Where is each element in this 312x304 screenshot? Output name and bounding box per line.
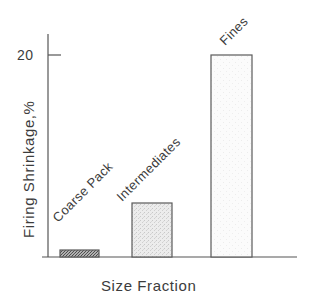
y-axis-title: Firing Shrinkage,% bbox=[20, 100, 37, 238]
bar-coarse-pack bbox=[60, 250, 99, 257]
y-tick-label-20: 20 bbox=[17, 47, 34, 63]
category-label-intermediates: Intermediates bbox=[114, 134, 184, 204]
bar-chart: 20 Coarse Pack Intermediates Fines Size … bbox=[0, 0, 312, 304]
bar-intermediates bbox=[132, 203, 172, 257]
x-axis-title: Size Fraction bbox=[101, 277, 196, 294]
category-label-fines: Fines bbox=[217, 14, 252, 49]
bar-fines bbox=[211, 55, 252, 257]
category-label-coarse-pack: Coarse Pack bbox=[50, 159, 116, 225]
